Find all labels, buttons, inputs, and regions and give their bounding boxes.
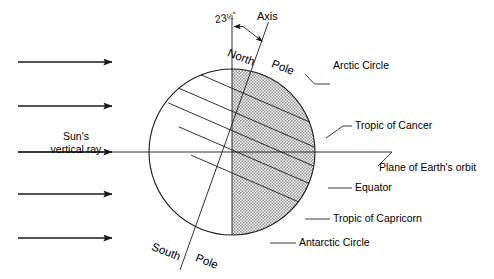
suns-ray-line-1: Sun's <box>63 130 89 142</box>
arctic-circle-label: Arctic Circle <box>333 59 389 71</box>
leader-tropic-cancer <box>326 126 343 138</box>
equator-label: Equator <box>355 181 392 193</box>
suns-ray-line-2: vertical ray <box>51 143 102 155</box>
tilt-angle-arrow-right <box>243 27 263 42</box>
tropic-of-cancer-label: Tropic of Cancer <box>355 119 432 131</box>
leader-arctic-circle <box>305 74 315 84</box>
axis-label: Axis <box>257 10 278 23</box>
shaded-hemisphere <box>232 55 342 255</box>
plane-of-earths-orbit-label: Plane of Earth's orbit <box>379 161 476 173</box>
diagram-canvas: 23½° Axis North Pole South Pole Arctic C… <box>0 0 494 279</box>
tropic-of-capricorn-label: Tropic of Capricorn <box>333 212 422 224</box>
antarctic-circle-label: Antarctic Circle <box>299 236 370 248</box>
suns-vertical-ray-label: Sun's vertical ray <box>34 130 118 156</box>
